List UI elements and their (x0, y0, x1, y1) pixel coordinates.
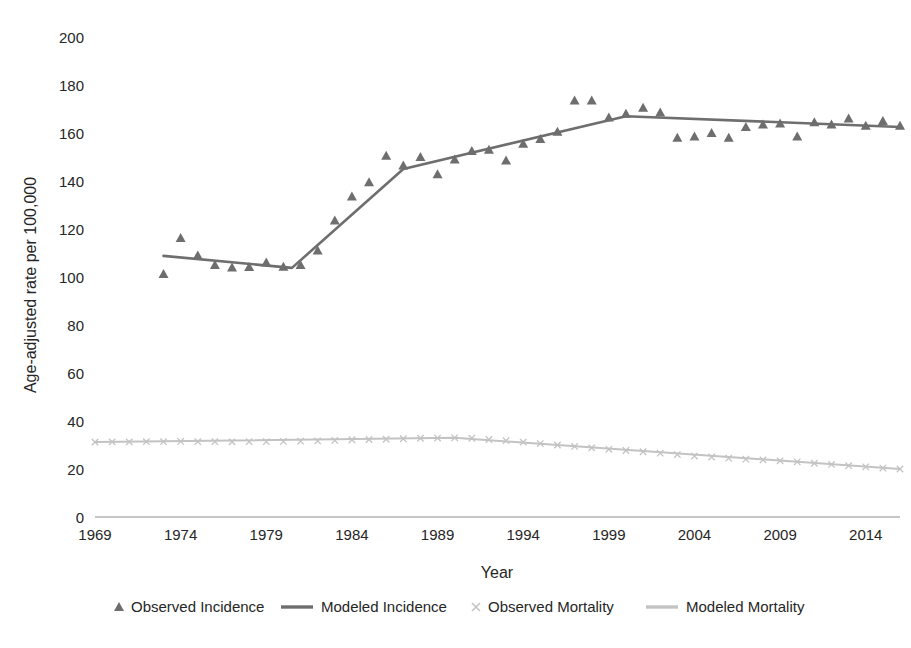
data-point-marker (638, 103, 648, 112)
y-tick-label: 180 (59, 77, 84, 94)
x-tick-label: 1989 (421, 526, 454, 543)
data-point-marker (708, 454, 714, 460)
y-tick-label: 200 (59, 29, 84, 46)
data-point-marker (724, 133, 734, 142)
legend-item-label: Modeled Incidence (321, 598, 447, 615)
y-tick-label: 160 (59, 125, 84, 142)
legend-item-label: Observed Incidence (131, 598, 264, 615)
series-modeled-incidence (164, 116, 900, 268)
y-tick-label: 100 (59, 269, 84, 286)
data-point-marker (332, 437, 338, 443)
legend-item-label: Observed Mortality (488, 598, 614, 615)
data-point-marker (176, 233, 186, 242)
data-point-marker (193, 250, 203, 259)
data-point-marker (674, 451, 680, 457)
y-axis-title: Age-adjusted rate per 100,000 (22, 177, 39, 393)
legend-triangle-icon (114, 602, 124, 611)
data-point-marker (587, 96, 597, 105)
data-point-marker (895, 121, 905, 130)
x-tick-label: 2009 (763, 526, 796, 543)
data-point-marker (261, 258, 271, 267)
trend-line (164, 116, 900, 268)
x-tick-label: 1984 (335, 526, 368, 543)
data-point-marker (878, 116, 888, 125)
data-point-marker (501, 156, 511, 165)
data-point-marker (741, 122, 751, 131)
data-point-marker (398, 160, 408, 169)
y-tick-label: 140 (59, 173, 84, 190)
x-tick-label: 1969 (78, 526, 111, 543)
x-tick-label: 1979 (250, 526, 283, 543)
chart-container: 020406080100120140160180200 196919741979… (0, 0, 911, 648)
data-point-marker (792, 132, 802, 141)
data-point-marker (433, 169, 443, 178)
x-tick-label: 2004 (678, 526, 711, 543)
data-point-marker (364, 177, 374, 186)
x-tick-label: 1999 (592, 526, 625, 543)
data-point-marker (604, 112, 614, 121)
y-tick-label: 120 (59, 221, 84, 238)
incidence-mortality-chart: 020406080100120140160180200 196919741979… (0, 0, 911, 648)
y-tick-label: 80 (67, 317, 84, 334)
y-tick-label: 20 (67, 461, 84, 478)
data-point-marker (672, 133, 682, 142)
data-point-marker (570, 96, 580, 105)
data-point-marker (726, 455, 732, 461)
data-point-marker (330, 216, 340, 225)
data-point-marker (621, 109, 631, 118)
data-point-marker (467, 146, 477, 155)
data-point-marker (347, 192, 357, 201)
legend-item-label: Modeled Mortality (686, 598, 805, 615)
data-point-marker (844, 114, 854, 123)
y-tick-label: 0 (76, 509, 84, 526)
x-tick-label: 2014 (849, 526, 882, 543)
data-point-marker (655, 108, 665, 117)
x-axis-title: Year (481, 564, 514, 581)
data-point-marker (415, 152, 425, 161)
chart-legend: Observed IncidenceModeled IncidenceObser… (114, 598, 805, 615)
legend-cross-icon (472, 603, 480, 611)
x-tick-label: 1974 (164, 526, 197, 543)
x-axis-tick-labels: 1969197419791984198919941999200420092014 (78, 526, 882, 543)
data-point-marker (809, 117, 819, 126)
data-point-marker (707, 128, 717, 137)
y-tick-label: 60 (67, 365, 84, 382)
y-axis-tick-labels: 020406080100120140160180200 (59, 29, 84, 526)
x-tick-label: 1994 (507, 526, 540, 543)
data-point-marker (159, 269, 169, 278)
data-point-marker (689, 132, 699, 141)
data-point-marker (381, 151, 391, 160)
y-tick-label: 40 (67, 413, 84, 430)
